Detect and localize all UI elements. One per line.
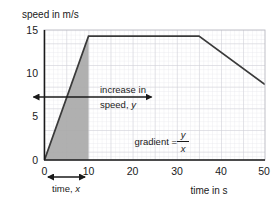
x-axis-title: time in s bbox=[190, 185, 227, 196]
y-tick-label-5: 5 bbox=[32, 110, 38, 122]
y-tick-label-0: 0 bbox=[32, 154, 38, 166]
increase-in-speed-line2-prefix: speed, bbox=[100, 99, 131, 110]
x-tick-label-30: 30 bbox=[171, 165, 183, 177]
increase-in-speed-line1: increase in bbox=[100, 84, 146, 95]
time-x-prefix: time, bbox=[52, 183, 75, 194]
chart-canvas: speed in m/s time in s 15 10 5 0 0 10 20… bbox=[0, 0, 272, 211]
x-tick-label-0: 0 bbox=[42, 165, 48, 177]
y-axis-title: speed in m/s bbox=[22, 9, 79, 20]
gradient-formula-prefix: gradient = bbox=[134, 136, 177, 147]
increase-in-speed-line2: speed, y bbox=[100, 99, 137, 110]
speed-time-graph-figure: speed in m/s time in s 15 10 5 0 0 10 20… bbox=[0, 0, 272, 211]
y-tick-label-15: 15 bbox=[26, 24, 38, 36]
x-tick-label-20: 20 bbox=[127, 165, 139, 177]
x-tick-label-40: 40 bbox=[215, 165, 227, 177]
y-tick-label-10: 10 bbox=[26, 67, 38, 79]
x-tick-label-10: 10 bbox=[83, 165, 95, 177]
x-tick-label-50: 50 bbox=[258, 165, 270, 177]
time-x-annotation: time, x bbox=[52, 183, 81, 194]
